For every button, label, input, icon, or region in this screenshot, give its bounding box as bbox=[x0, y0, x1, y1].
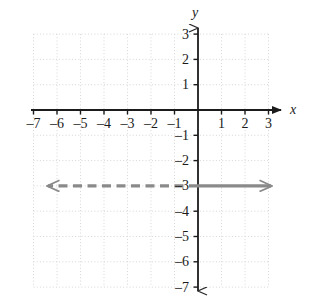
y-tick-label--7: –7 bbox=[160, 281, 189, 295]
y-axis-label: y bbox=[192, 6, 198, 20]
x-tick-label--3: –3 bbox=[116, 117, 139, 131]
y-tick-label--4: –4 bbox=[160, 205, 189, 219]
y-tick-label-2: 2 bbox=[164, 53, 189, 67]
coordinate-plane-figure: –7 –6 –5 –4 –3 –2 –1 1 2 3 3 2 1 –1 –2 –… bbox=[0, 0, 313, 299]
y-tick-label--2: –2 bbox=[160, 154, 189, 168]
x-tick-label-1: 1 bbox=[210, 117, 233, 131]
x-tick-label--5: –5 bbox=[69, 117, 92, 131]
y-tick-label--3: –3 bbox=[160, 179, 189, 193]
x-axis-label: x bbox=[290, 103, 296, 117]
x-tick-label--6: –6 bbox=[46, 117, 69, 131]
graph-canvas bbox=[0, 0, 313, 299]
x-tick-label-3: 3 bbox=[257, 117, 280, 131]
x-tick-label-2: 2 bbox=[234, 117, 257, 131]
grid-lines bbox=[34, 34, 269, 287]
y-tick-label-1: 1 bbox=[164, 78, 189, 92]
y-tick-label-3: 3 bbox=[164, 28, 189, 42]
y-tick-label--6: –6 bbox=[160, 255, 189, 269]
x-tick-label--4: –4 bbox=[93, 117, 116, 131]
x-tick-label--7: –7 bbox=[22, 117, 45, 131]
y-tick-label--5: –5 bbox=[160, 230, 189, 244]
y-tick-label--1: –1 bbox=[160, 129, 189, 143]
